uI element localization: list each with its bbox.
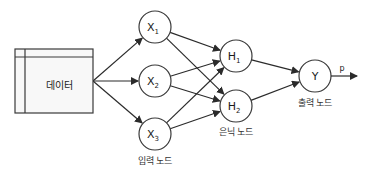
output-node-y: Y: [299, 60, 331, 92]
hidden-node-h2-circle: [220, 90, 252, 122]
edge-x1-to-h2: [166, 38, 223, 94]
input-node-x2: X2: [139, 65, 171, 97]
input-node-x3-subscript: 3: [155, 135, 159, 143]
edges: [93, 32, 299, 128]
edge-h2-to-y: [251, 82, 299, 100]
input-node-x3-circle: [139, 118, 171, 150]
input-node-x2-subscript: 2: [155, 82, 159, 90]
output-arrow-label: p: [339, 64, 344, 73]
edge-x3-to-h1: [167, 68, 224, 123]
caption-output-node: 출력 노드: [298, 97, 333, 108]
edge-data-to-x3: [93, 81, 142, 123]
input-node-x2-circle: [139, 65, 171, 97]
output-node-y-label: Y: [311, 70, 319, 83]
hidden-node-h2-subscript: 2: [236, 107, 240, 115]
input-node-x3: X3: [139, 118, 171, 150]
edge-data-to-x1: [93, 38, 142, 81]
input-node-x1-subscript: 1: [155, 28, 159, 36]
data-box-label: 데이터: [46, 80, 73, 91]
hidden-node-h2: H2: [220, 90, 252, 122]
hidden-node-h2-label: H: [228, 100, 236, 113]
neural-network-diagram: 데이터 X1 X2 X3 H1 H2 Y p 입력 노드 은닉 노드 출력 노드: [0, 0, 368, 176]
data-box: 데이터: [15, 49, 93, 113]
edge-x1-to-h1: [170, 32, 220, 50]
hidden-node-h1-label: H: [228, 50, 236, 63]
input-node-x1-circle: [139, 11, 171, 43]
edge-x2-to-h1: [170, 61, 219, 76]
edge-x2-to-h2: [170, 86, 219, 101]
hidden-node-h1-circle: [220, 40, 252, 72]
edge-x3-to-h2: [170, 112, 220, 129]
input-node-x1: X1: [139, 11, 171, 43]
hidden-node-h1-subscript: 1: [236, 57, 240, 65]
caption-hidden-nodes: 은닉 노드: [219, 127, 254, 137]
caption-input-nodes: 입력 노드: [138, 155, 173, 166]
edge-h1-to-y: [252, 60, 299, 72]
hidden-node-h1: H1: [220, 40, 252, 72]
